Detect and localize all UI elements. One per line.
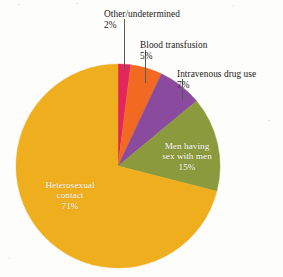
slice-label-heterosexual-contact-line1: Heterosexual [45,180,94,190]
slice-callout-intravenous-drug-use-label: Intravenous drug use [177,69,256,79]
slice-callout-blood-transfusion-label: Blood transfusion [140,40,207,50]
slice-label-men-having-sex-with-men: Men having sex with men 15% [139,141,235,172]
slice-callout-blood-transfusion-percent: 5% [140,51,207,62]
slice-label-heterosexual-contact-line2: contact [57,190,84,200]
slice-callout-blood-transfusion: Blood transfusion 5% [140,40,207,61]
slice-callout-intravenous-drug-use-percent: 7% [177,80,256,91]
scan-speck [76,3,78,4]
slice-label-men-having-sex-with-men-line1: Men having [165,141,210,151]
scan-speck [232,5,234,6]
scan-speck [8,258,10,259]
slice-callout-other-undetermined: Other/undetermined 2% [104,9,180,30]
slice-label-men-having-sex-with-men-percent: 15% [178,162,195,172]
slice-callout-intravenous-drug-use: Intravenous drug use 7% [177,69,256,90]
pie-chart-figure: Other/undetermined 2% Blood transfusion … [0,0,283,277]
slice-label-heterosexual-contact: Heterosexual contact 71% [17,180,123,211]
scan-speck [268,120,270,121]
slice-label-men-having-sex-with-men-line2: sex with men [162,151,212,161]
slice-callout-other-undetermined-label: Other/undetermined [104,9,180,19]
scan-speck [18,4,20,5]
slice-callout-other-undetermined-percent: 2% [104,20,180,31]
slice-label-heterosexual-contact-percent: 71% [61,201,78,211]
